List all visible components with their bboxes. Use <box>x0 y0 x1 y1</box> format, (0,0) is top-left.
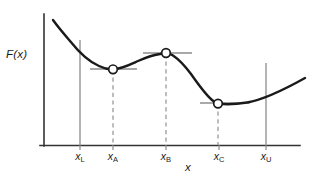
axes-group <box>40 14 300 146</box>
marker-xA <box>109 65 118 74</box>
tick-label-xB-sub: B <box>166 155 171 164</box>
tick-label-xB: xB <box>161 150 171 162</box>
tick-label-xC-sub: C <box>219 155 224 164</box>
tick-label-xA-sub: A <box>113 155 118 164</box>
marker-xC <box>214 99 223 108</box>
dropline-group <box>113 54 218 145</box>
function-plot-figure: F(x) x xL xA xB xC xU <box>0 0 319 181</box>
marker-xB <box>162 49 171 58</box>
x-axis-label: x <box>185 161 191 173</box>
tick-label-xA: xA <box>108 150 118 162</box>
y-axis-label: F(x) <box>6 48 27 60</box>
tick-label-xC: xC <box>214 150 225 162</box>
tick-label-xL-sub: L <box>81 155 85 164</box>
tick-label-xU: xU <box>261 150 272 162</box>
tangent-lines-group <box>90 53 250 103</box>
tick-label-xU-sub: U <box>266 155 271 164</box>
function-curve <box>53 20 305 104</box>
tick-label-xL: xL <box>75 150 84 162</box>
